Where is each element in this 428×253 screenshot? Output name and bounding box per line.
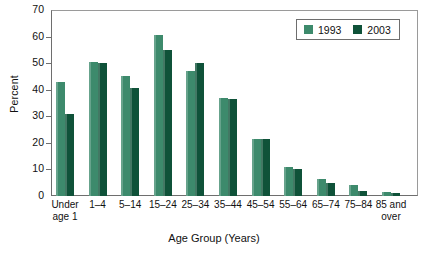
bar-highlight	[65, 114, 67, 196]
bar-2003	[130, 88, 139, 196]
y-axis-tick-label: 50	[20, 57, 44, 67]
y-axis-tick-label: 30	[20, 110, 44, 120]
legend-label: 1993	[318, 25, 341, 35]
bar-group	[121, 10, 139, 196]
bar-1993	[284, 167, 293, 196]
bar-2003	[391, 193, 400, 196]
legend-swatch-icon	[304, 25, 313, 34]
bar-group	[154, 10, 172, 196]
y-axis-title: Percent	[8, 49, 20, 139]
bar-highlight	[326, 183, 328, 196]
bar-highlight	[252, 139, 254, 196]
bar-group	[219, 10, 237, 196]
legend-label: 2003	[367, 25, 390, 35]
bar-highlight	[130, 88, 132, 196]
y-axis-tick-label: 70	[20, 4, 44, 14]
bar-highlight	[349, 185, 351, 196]
x-axis-title: Age Group (Years)	[0, 232, 428, 244]
bar-highlight	[391, 193, 393, 196]
bar-highlight	[284, 167, 286, 196]
y-axis-tick-label: 40	[20, 84, 44, 94]
bar-2003	[261, 139, 270, 196]
bar-1993	[56, 82, 65, 196]
y-axis-tick-label: 20	[20, 137, 44, 147]
bar-highlight	[163, 50, 165, 196]
bar-highlight	[98, 63, 100, 196]
bar-2003	[163, 50, 172, 196]
bar-highlight	[293, 169, 295, 196]
bar-group	[252, 10, 270, 196]
bar-highlight	[219, 98, 221, 196]
bar-1993	[349, 185, 358, 196]
bar-2003	[98, 63, 107, 196]
bar-1993	[317, 179, 326, 196]
bar-2003	[358, 191, 367, 196]
bar-2003	[195, 63, 204, 196]
bar-2003	[228, 99, 237, 196]
bar-2003	[326, 183, 335, 196]
bar-1993	[382, 192, 391, 196]
bar-highlight	[261, 139, 263, 196]
bar-1993	[219, 98, 228, 196]
bar-group	[56, 10, 74, 196]
bar-highlight	[382, 192, 384, 196]
legend-swatch-icon	[353, 25, 362, 34]
bar-group	[89, 10, 107, 196]
bar-highlight	[56, 82, 58, 196]
bar-highlight	[358, 191, 360, 196]
y-axis-tick-label: 60	[20, 31, 44, 41]
bar-highlight	[89, 62, 91, 196]
bar-highlight	[195, 63, 197, 196]
bar-highlight	[228, 99, 230, 196]
bar-highlight	[186, 71, 188, 196]
bar-highlight	[121, 76, 123, 196]
bar-2003	[293, 169, 302, 196]
bar-highlight	[317, 179, 319, 196]
legend-item-2003[interactable]: 2003	[353, 25, 390, 35]
bar-2003	[65, 114, 74, 196]
x-axis-tick-label: 85 and over	[367, 199, 415, 222]
bar-1993	[252, 139, 261, 196]
bar-1993	[89, 62, 98, 196]
bar-1993	[154, 35, 163, 196]
y-axis-tick-label: 10	[20, 163, 44, 173]
bar-chart: Percent 010203040506070 Under age 11–45–…	[0, 0, 428, 253]
bar-highlight	[154, 35, 156, 196]
legend: 19932003	[296, 19, 400, 40]
legend-item-1993[interactable]: 1993	[304, 25, 341, 35]
bar-1993	[121, 76, 130, 196]
bar-1993	[186, 71, 195, 196]
bar-group	[186, 10, 204, 196]
